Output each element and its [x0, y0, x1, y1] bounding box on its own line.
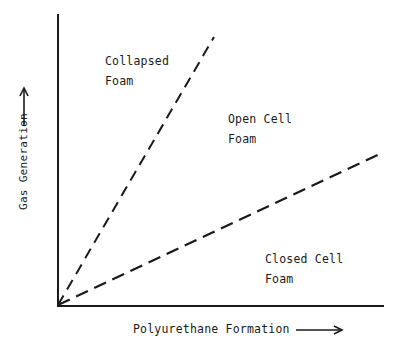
region-label-line: Foam	[265, 271, 343, 288]
region-label-line: Collapsed	[105, 53, 169, 70]
diagram-canvas	[0, 0, 407, 345]
right-arrow-icon	[296, 326, 342, 334]
region-label-line: Open Cell	[228, 111, 292, 128]
region-label-collapsed: Collapsed Foam	[105, 53, 169, 90]
region-label-line: Foam	[105, 73, 169, 90]
region-label-closed-cell: Closed Cell Foam	[265, 251, 343, 288]
region-label-open-cell: Open Cell Foam	[228, 111, 292, 148]
x-axis-label: Polyurethane Formation	[133, 321, 290, 338]
region-label-line: Closed Cell	[265, 251, 343, 268]
y-axis-label: Gas Generation	[17, 113, 30, 210]
region-label-line: Foam	[228, 131, 292, 148]
